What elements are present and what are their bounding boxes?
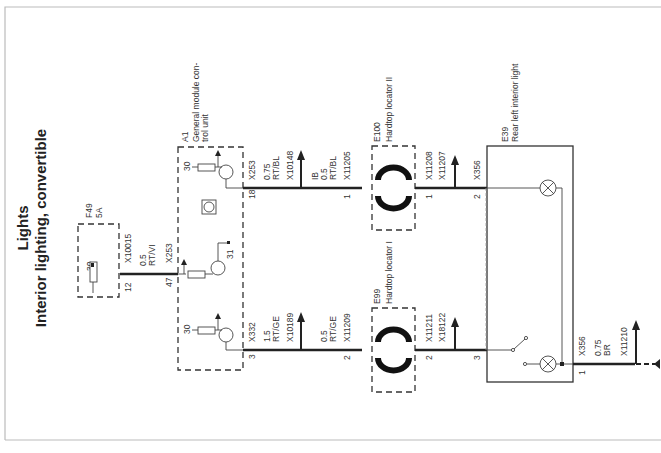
- svg-text:5A: 5A: [94, 207, 104, 218]
- svg-text:X11210: X11210: [619, 327, 629, 356]
- svg-text:X356: X356: [577, 336, 587, 356]
- svg-text:X253: X253: [164, 243, 174, 263]
- svg-text:Interior lighting, convertible: Interior lighting, convertible: [32, 129, 49, 327]
- svg-text:X11208: X11208: [424, 151, 434, 180]
- svg-text:E99: E99: [372, 289, 382, 304]
- svg-text:X253: X253: [247, 160, 257, 180]
- wiring-diagram: Lights Interior lighting, convertible F4…: [0, 0, 661, 453]
- svg-text:1: 1: [424, 194, 434, 199]
- svg-text:30: 30: [182, 324, 192, 334]
- svg-text:X356: X356: [472, 160, 482, 180]
- hardtop-locator-2: E100 Hardtop locator II: [372, 77, 415, 230]
- page-title: Lights Interior lighting, convertible: [14, 129, 49, 327]
- svg-text:RT/VI: RT/VI: [147, 244, 157, 266]
- svg-text:X10148: X10148: [285, 150, 295, 180]
- svg-text:Rear left interior light: Rear left interior light: [510, 63, 520, 142]
- svg-text:2: 2: [472, 194, 482, 199]
- fuse-f49: F49 5A 30 12 X10015: [78, 203, 133, 297]
- svg-text:RT/BL: RT/BL: [271, 156, 281, 180]
- svg-text:X11207: X11207: [437, 151, 447, 180]
- svg-text:E39: E39: [500, 127, 510, 142]
- module-a1: A1 General module con- trol unit 30 31 3…: [178, 62, 243, 370]
- hardtop-locator-1: E99 Hardtop locator I: [372, 241, 415, 392]
- transistor-icon: [211, 261, 225, 275]
- rear-left-interior-light: E39 Rear left interior light: [486, 63, 573, 382]
- svg-text:Hardtop locator I: Hardtop locator I: [384, 241, 394, 304]
- svg-text:47: 47: [164, 277, 174, 287]
- svg-text:1: 1: [342, 194, 352, 199]
- svg-text:RT/GE: RT/GE: [328, 316, 338, 342]
- svg-text:F49: F49: [84, 203, 94, 218]
- svg-text:31: 31: [225, 249, 235, 259]
- svg-text:RT/BL: RT/BL: [328, 156, 338, 180]
- svg-text:X10189: X10189: [285, 312, 295, 342]
- arrow-up-icon: [451, 155, 459, 165]
- svg-text:RT/GE: RT/GE: [271, 316, 281, 342]
- svg-text:BR: BR: [602, 344, 612, 356]
- transistor-icon: [219, 165, 233, 179]
- svg-text:X11211: X11211: [424, 314, 434, 342]
- arrow-up-icon: [451, 317, 459, 327]
- svg-text:trol unit: trol unit: [200, 113, 210, 142]
- svg-text:1: 1: [577, 370, 587, 375]
- svg-text:Lights: Lights: [14, 206, 31, 251]
- svg-text:2: 2: [342, 355, 352, 360]
- arrow-up-icon: [297, 312, 305, 322]
- svg-text:X18122: X18122: [437, 312, 447, 342]
- svg-text:2: 2: [424, 355, 434, 360]
- svg-text:X332: X332: [247, 322, 257, 342]
- svg-text:18: 18: [247, 189, 257, 199]
- svg-text:Hardtop locator II: Hardtop locator II: [384, 77, 394, 142]
- arrow-up-icon: [297, 150, 305, 160]
- svg-text:A1: A1: [180, 131, 190, 142]
- svg-text:X11205: X11205: [342, 151, 352, 180]
- arrow-right-icon: [654, 359, 660, 369]
- svg-text:X10015: X10015: [123, 233, 133, 263]
- svg-text:E100: E100: [372, 122, 382, 142]
- svg-text:X11209: X11209: [342, 313, 352, 342]
- svg-text:12: 12: [123, 282, 133, 292]
- svg-text:3: 3: [472, 355, 482, 360]
- arrow-up-icon: [632, 320, 640, 330]
- svg-text:30: 30: [182, 161, 192, 171]
- transistor-icon: [219, 328, 233, 342]
- svg-text:3: 3: [247, 354, 257, 359]
